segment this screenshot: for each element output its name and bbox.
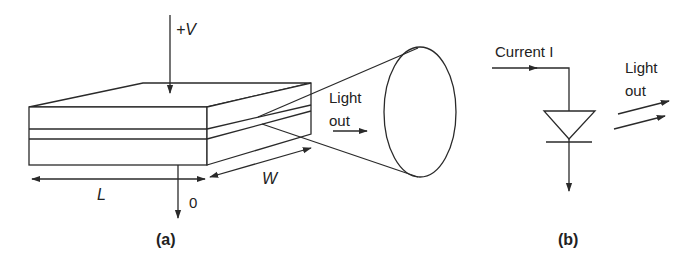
light-emission-arrow-2: [614, 116, 665, 129]
led-diagram: +V 0 L W Light out (a) Current I Light o…: [0, 0, 700, 261]
width-label: W: [262, 170, 279, 187]
voltage-label: +V: [176, 21, 197, 38]
current-wire: [535, 68, 569, 111]
ground-label: 0: [189, 194, 197, 211]
light-out-label-b-line2: out: [625, 82, 647, 99]
current-label: Current I: [495, 43, 553, 60]
light-out-label-b-line1: Light: [625, 59, 658, 76]
diode-triangle-icon: [544, 111, 595, 139]
caption-a: (a): [156, 231, 176, 248]
figure-a-slab-led: [29, 15, 456, 218]
caption-b: (b): [558, 231, 578, 248]
cone-edge-bottom: [262, 124, 418, 177]
light-out-label-a-line2: out: [329, 112, 351, 129]
cone-ellipse: [384, 47, 456, 177]
slab-front-face: [29, 107, 207, 165]
length-label: L: [97, 186, 106, 203]
light-out-label-a-line1: Light: [329, 89, 362, 106]
light-emission-arrow-1: [618, 101, 669, 114]
